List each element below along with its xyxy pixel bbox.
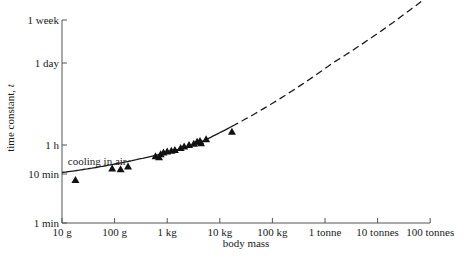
x-tick-label: 10 g [52,226,72,238]
x-tick-label: 10 tonnes [356,226,398,238]
x-tick-label: 100 g [102,226,127,238]
annotation-cooling-in-air: cooling in air [68,155,127,167]
extrapolated-curve [232,0,440,126]
x-axis-title: body mass [223,237,270,249]
y-tick-label: 1 day [35,57,60,69]
x-tick-label: 1 tonne [309,226,342,238]
chart: 1 min10 min1 h1 day1 week 10 g100 g1 kg1… [0,0,466,260]
y-axis-title: time constant, t [4,83,16,151]
y-tick-label: 10 min [28,168,59,180]
data-point-triangle [71,176,79,183]
data-point-triangle [228,128,236,135]
x-axis: 10 g100 g1 kg10 kg100 kg1 tonne10 tonnes… [52,218,454,238]
x-tick-label: 1 kg [158,226,178,238]
y-tick-label: 1 h [45,139,59,151]
y-axis: 1 min10 min1 h1 day1 week [28,14,67,229]
x-tick-label: 100 tonnes [406,226,454,238]
y-tick-label: 1 week [28,14,60,26]
